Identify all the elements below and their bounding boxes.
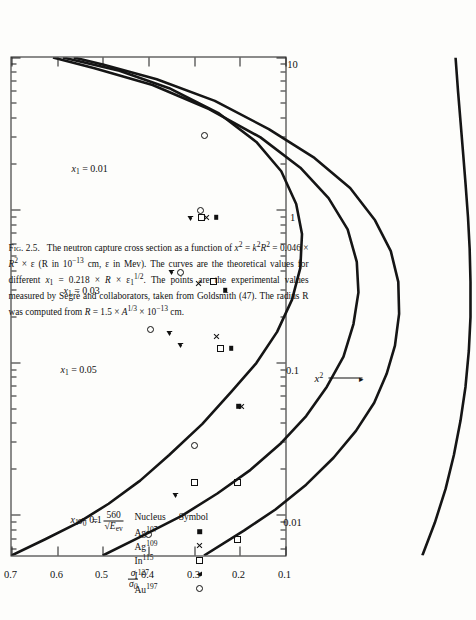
marker-open-circle-icon: [196, 585, 203, 592]
x-tick-label: 10: [287, 58, 298, 69]
y-tick-label: 0.7: [0, 569, 22, 580]
legend-marker-filled-square: [200, 531, 205, 536]
y-tick-label: 0.2: [226, 569, 250, 580]
y-tick-label: 0.5: [89, 569, 113, 580]
legend: Nucleus Symbol Ag107Ag109In115I127Au197: [134, 510, 221, 595]
legend-marker-cross: [200, 546, 207, 553]
marker-filled-square-icon: [197, 529, 202, 534]
legend-symbol-cell: [178, 539, 221, 553]
y-tick-label: 0.4: [135, 569, 159, 580]
legend-symbol-holder: [195, 555, 205, 565]
legend-row: In115: [134, 553, 221, 567]
legend-row: Ag109: [134, 539, 221, 553]
x-tick-label: 0.01: [283, 516, 301, 527]
curve-label: x1 = 0.05: [60, 363, 96, 376]
sigma-fraction: 560 √Eev: [103, 510, 123, 531]
legend-table: Nucleus Symbol Ag107Ag109In115I127Au197: [134, 510, 221, 595]
legend-row: Au197: [134, 581, 221, 595]
plot-area: x1 = 0.1x1 = 0.05x1 = 0.03x1 = 0.01 Nucl…: [6, 50, 326, 590]
curve-3: [422, 57, 470, 555]
y-tick-label: 0.3: [181, 569, 205, 580]
legend-header-nucleus: Nucleus: [134, 510, 178, 524]
legend-nucleus-label: Au197: [134, 581, 178, 595]
legend-symbol-holder: [195, 526, 205, 536]
y-tick-label: 0.6: [44, 569, 68, 580]
sigma-denominator: √Eev: [103, 521, 123, 532]
curve-label: x1 = 0.01: [71, 162, 107, 175]
legend-nucleus-label: In115: [134, 553, 178, 567]
legend-row: Ag107: [134, 524, 221, 538]
y-tick-label: 0.1: [272, 569, 296, 580]
x-axis-title: x2 ▸: [314, 370, 362, 383]
figure-number: Fig. 2.5.: [8, 242, 39, 252]
legend-symbol-holder: [195, 541, 205, 551]
legend-marker-open-square: [200, 560, 207, 567]
marker-open-square-icon: [196, 556, 203, 563]
figure-caption: Fig. 2.5. The neutron capture cross sect…: [8, 238, 308, 318]
x-tick-label: 1: [289, 211, 294, 222]
marker-cross-icon: [196, 542, 203, 549]
legend-symbol-holder: [195, 583, 205, 593]
legend-nucleus-label: Ag107: [134, 524, 178, 538]
legend-nucleus-label: Ag109: [134, 539, 178, 553]
x-tick-label: 0.1: [285, 364, 298, 375]
legend-symbol-cell: [178, 581, 221, 595]
sigma-zero-formula: σ0 = 560 √Eev: [77, 510, 123, 531]
legend-header-symbol: Symbol: [178, 510, 221, 524]
legend-symbol-cell: [178, 524, 221, 538]
legend-body: Ag107Ag109In115I127Au197: [134, 524, 221, 595]
legend-symbol-cell: [178, 553, 221, 567]
legend-marker-open-circle: [200, 588, 207, 595]
